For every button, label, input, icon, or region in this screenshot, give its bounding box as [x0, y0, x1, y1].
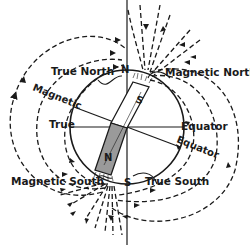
- magnetic-field-diagram: True North Magnetic North Magnetic True …: [0, 0, 250, 245]
- true-north-label: True North: [51, 65, 114, 77]
- magnetic-label: Magnetic: [31, 82, 83, 112]
- geographic-pole-s: S: [124, 177, 131, 188]
- magnetic-equator-label: Equator: [175, 134, 220, 161]
- magnetic-south-label: Magnetic South: [11, 175, 104, 187]
- equator-label: Equator: [181, 120, 228, 132]
- geographic-pole-n: N: [121, 64, 129, 75]
- magnet-n-label: N: [104, 152, 112, 163]
- magnetic-north-label: Magnetic North: [165, 66, 250, 78]
- true-label: True: [49, 118, 75, 130]
- true-south-label: True South: [145, 175, 209, 187]
